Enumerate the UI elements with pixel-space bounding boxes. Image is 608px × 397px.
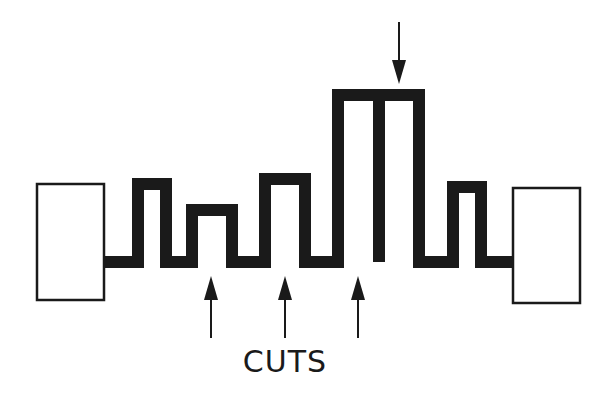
serpentine-trace (104, 95, 513, 262)
arrow-head-icon (351, 276, 365, 300)
arrow-head-icon (392, 60, 406, 84)
left-pad (37, 184, 104, 300)
right-pad (513, 188, 580, 303)
arrow-head-icon (278, 276, 292, 300)
down-arrow (392, 22, 406, 84)
cut-arrow-2 (278, 276, 292, 338)
arrow-head-icon (204, 276, 218, 300)
trace-path (104, 95, 513, 262)
cut-arrow-3 (351, 276, 365, 338)
trimming-diagram (0, 0, 608, 397)
cuts-label: CUTS (243, 344, 327, 379)
cut-arrows (204, 276, 365, 338)
cut-arrow-1 (204, 276, 218, 338)
